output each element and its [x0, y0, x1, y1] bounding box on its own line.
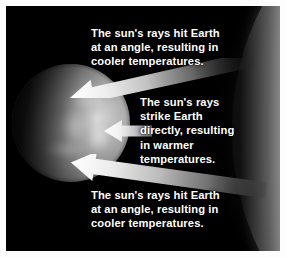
- earth-cloud-texture: [12, 64, 130, 182]
- figure-frame: The sun's rays hit Earth at an angle, re…: [0, 0, 286, 257]
- diagram-scene: The sun's rays hit Earth at an angle, re…: [6, 6, 280, 251]
- caption-upper-oblique: The sun's rays hit Earth at an angle, re…: [91, 26, 220, 69]
- caption-direct: The sun's rays strike Earth directly, re…: [140, 95, 234, 166]
- caption-lower-oblique: The sun's rays hit Earth at an angle, re…: [91, 188, 220, 231]
